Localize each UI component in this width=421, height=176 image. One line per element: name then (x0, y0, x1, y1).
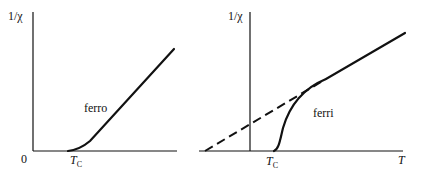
ferri-panel (199, 12, 405, 151)
ferro-tc-main: T (70, 153, 77, 167)
ferro-origin-label: 0 (21, 153, 27, 165)
ferri-tc-sub: C (273, 161, 278, 170)
ferro-y-axis-label: 1/χ (8, 10, 23, 22)
ferri-tc-main: T (266, 154, 273, 168)
susceptibility-figure (0, 0, 421, 176)
ferri-curve-label: ferri (313, 107, 334, 119)
ferro-tc-sub: C (77, 160, 82, 169)
ferri-y-axis-label: 1/χ (228, 10, 243, 22)
ferri-curve (274, 33, 405, 151)
ferri-x-axis-label: T (398, 154, 405, 166)
ferri-tc-label: TC (266, 155, 278, 172)
ferro-tc-label: TC (70, 154, 82, 171)
ferro-curve-label: ferro (84, 102, 107, 114)
ferro-panel (33, 12, 177, 151)
ferro-curve (68, 49, 174, 151)
